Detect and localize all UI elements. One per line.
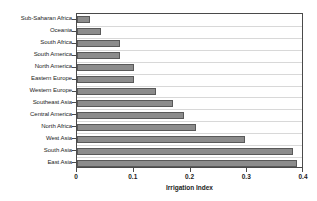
category-label-eastern-europe: Eastern Europe <box>0 75 72 82</box>
bar <box>77 28 101 35</box>
value-tick <box>76 168 77 172</box>
value-tick-label: 0.2 <box>185 173 194 181</box>
category-label-south-america: South America <box>0 51 72 58</box>
bar <box>77 136 245 143</box>
value-tick-label: 0 <box>74 173 78 181</box>
x-axis-title: Irrigation Index <box>76 184 303 192</box>
category-label-sub-saharan-africa: Sub-Saharan Africa <box>0 15 72 22</box>
bar <box>77 40 120 47</box>
category-axis-labels: Sub-Saharan AfricaOceaniaSouth AfricaSou… <box>0 13 72 168</box>
category-label-west-asia: West Asia <box>0 135 72 142</box>
bar-row <box>77 74 134 86</box>
bar-row <box>77 145 293 157</box>
bar <box>77 124 196 131</box>
value-tick-label: 0.3 <box>242 173 251 181</box>
value-tick <box>190 168 191 172</box>
bar-row <box>77 14 90 26</box>
bar <box>77 52 120 59</box>
value-tick-label: 0.1 <box>128 173 137 181</box>
bar <box>77 88 156 95</box>
category-label-southeast-asia: Southeast Asia <box>0 99 72 106</box>
value-axis-tick-labels: 00.10.20.30.4 <box>76 173 303 182</box>
bar <box>77 100 173 107</box>
category-label-south-africa: South Africa <box>0 39 72 46</box>
category-label-western-europe: Western Europe <box>0 87 72 94</box>
bars-layer <box>77 14 302 167</box>
category-label-central-america: Central America <box>0 111 72 118</box>
category-label-north-africa: North Africa <box>0 123 72 130</box>
bar-row <box>77 38 120 50</box>
value-tick-label: 0.4 <box>298 173 307 181</box>
plot-area <box>76 13 303 168</box>
bar <box>77 16 90 23</box>
bar-row <box>77 50 120 62</box>
value-tick <box>246 168 247 172</box>
category-label-oceania: Oceania <box>0 27 72 34</box>
value-tick <box>302 168 303 172</box>
bar-row <box>77 133 245 145</box>
bar <box>77 112 184 119</box>
category-label-north-america: North America <box>0 63 72 70</box>
category-label-east-asia: East Asia <box>0 159 72 166</box>
bar-row <box>77 121 196 133</box>
bar-row <box>77 97 173 109</box>
bar-row <box>77 109 184 121</box>
bar-row <box>77 62 134 74</box>
irrigation-index-bar-chart: Sub-Saharan AfricaOceaniaSouth AfricaSou… <box>0 0 317 201</box>
bar <box>77 64 134 71</box>
bar <box>77 160 297 167</box>
bar <box>77 76 134 83</box>
bar-row <box>77 26 101 38</box>
value-tick <box>133 168 134 172</box>
bar <box>77 148 293 155</box>
category-label-south-asia: South Asia <box>0 147 72 154</box>
value-axis-ticks <box>76 168 303 172</box>
bar-row <box>77 86 156 98</box>
